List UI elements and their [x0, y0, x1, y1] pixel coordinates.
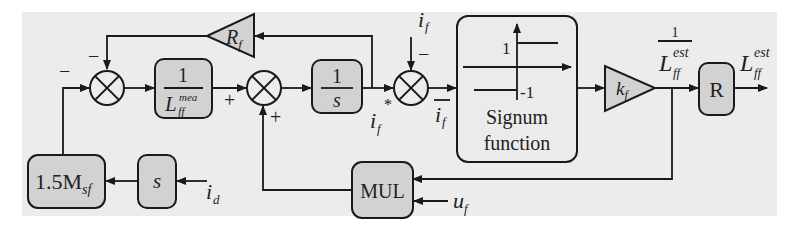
signum-title-line2: function [484, 132, 551, 154]
sum1-left-sign: − [59, 60, 70, 82]
svg-text:L: L [739, 50, 753, 76]
signum-title-line1: Signum [486, 106, 549, 129]
svg-text:i: i [206, 179, 212, 204]
svg-text:est: est [754, 45, 771, 60]
svg-text:*: * [384, 96, 392, 113]
inverse-l-mea-block: 1 L ff mea [155, 59, 212, 119]
svg-text:d: d [213, 192, 220, 207]
derivative-block: s [138, 155, 176, 208]
sum3-top-sign: − [418, 43, 429, 65]
sum2-left-sign: + [224, 89, 235, 111]
reciprocal-block: R [699, 63, 734, 115]
signum-function-block: 1 -1 Signum function [457, 16, 577, 162]
signum-negative-level: -1 [520, 83, 534, 102]
svg-text:s: s [333, 89, 341, 111]
svg-text:u: u [453, 188, 464, 213]
summing-junction-1 [90, 71, 124, 105]
sum1-top-sign: − [88, 45, 99, 67]
summing-junction-2 [247, 71, 281, 105]
msf-gain-block: 1.5Msf [28, 155, 105, 208]
svg-text:mea: mea [179, 91, 198, 103]
svg-text:i: i [370, 108, 376, 133]
svg-text:L: L [658, 50, 672, 76]
signum-positive-level: 1 [502, 39, 511, 58]
svg-text:1: 1 [178, 64, 188, 86]
svg-text:MUL: MUL [360, 180, 404, 202]
svg-text:1: 1 [332, 65, 342, 87]
svg-text:i: i [435, 102, 441, 127]
svg-text:est: est [673, 45, 690, 60]
block-diagram: Rf − − 1 L ff mea + + 1 s [0, 0, 799, 235]
svg-text:1: 1 [672, 25, 679, 40]
sum2-bottom-sign: + [270, 106, 281, 128]
svg-text:s: s [153, 169, 161, 193]
summing-junction-3 [394, 71, 428, 105]
integrator-block: 1 s [312, 60, 362, 113]
svg-text:R: R [709, 77, 724, 102]
svg-text:L: L [164, 92, 177, 116]
multiplier-block: MUL [352, 162, 413, 218]
svg-text:i: i [418, 7, 424, 32]
